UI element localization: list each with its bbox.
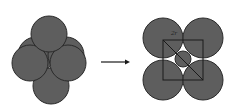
radius-label: 2r (171, 29, 178, 37)
arrow-head-icon (125, 60, 130, 65)
left-sphere-cluster (12, 16, 86, 104)
right-sphere-cluster: 2r (143, 18, 223, 100)
sphere (31, 16, 67, 52)
transform-arrow (101, 60, 130, 65)
sphere-packing-diagram: 2r (0, 0, 235, 109)
interstitial-sphere (175, 51, 191, 67)
